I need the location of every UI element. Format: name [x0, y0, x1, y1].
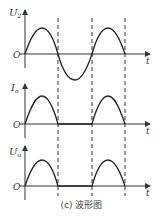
- panel-uo: Uo O t: [9, 146, 150, 200]
- panel-u2: U2 O t: [9, 7, 150, 80]
- half-wave-current: [25, 96, 125, 124]
- figure-caption: (c) 波形图: [0, 198, 163, 211]
- dashed-period-lines: [58, 18, 125, 196]
- panel-io: Io O t: [10, 82, 150, 138]
- origin-label: O: [13, 120, 21, 130]
- half-wave-voltage: [25, 160, 125, 186]
- origin-label: O: [13, 182, 21, 192]
- x-label-t: t: [146, 188, 150, 198]
- origin-label: O: [13, 50, 21, 60]
- y-label-u2: U2: [9, 7, 21, 19]
- x-label-t: t: [146, 56, 150, 66]
- y-label-uo: Uo: [9, 146, 21, 158]
- x-label-t: t: [146, 126, 150, 136]
- y-label-io: Io: [10, 82, 19, 94]
- waveform-diagram: U2 O t Io O t Uo O t: [0, 0, 163, 221]
